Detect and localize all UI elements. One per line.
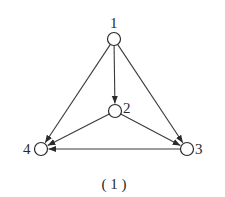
node-2 bbox=[109, 105, 122, 118]
edge-1-to-3 bbox=[118, 44, 183, 142]
edge-1-to-4 bbox=[45, 44, 110, 142]
edges bbox=[45, 44, 183, 149]
edge-2-to-3 bbox=[121, 114, 181, 145]
edge-2-to-4 bbox=[48, 114, 110, 146]
node-label-3: 3 bbox=[195, 141, 203, 157]
graph-diagram: 1 2 3 4 ( 1 ) bbox=[0, 0, 225, 197]
node-label-2: 2 bbox=[123, 100, 131, 116]
node-4 bbox=[35, 143, 48, 156]
node-label-1: 1 bbox=[110, 15, 118, 31]
edge-1-to-2 bbox=[114, 45, 115, 103]
node-label-4: 4 bbox=[23, 141, 31, 157]
node-3 bbox=[181, 143, 194, 156]
figure-caption: ( 1 ) bbox=[102, 176, 127, 193]
node-1 bbox=[108, 33, 121, 46]
